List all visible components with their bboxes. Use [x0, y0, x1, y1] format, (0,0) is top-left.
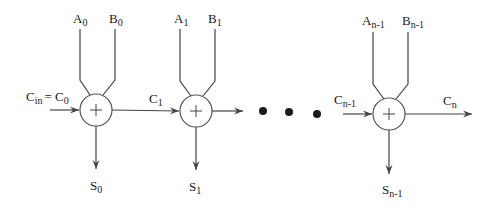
- label-b0: B0: [109, 11, 123, 28]
- label-s0: S0: [90, 178, 102, 195]
- adder-0: A0 B0 Cin= C0 C1 S0: [26, 11, 179, 195]
- label-s1: S1: [189, 179, 201, 196]
- carry-c1-arrow: [112, 110, 179, 111]
- label-cin-c0: Cin= C0: [26, 89, 69, 106]
- input-bn-1-wire: [396, 32, 408, 99]
- adder-1: A1 B1 S1: [174, 11, 243, 196]
- label-cn: Cn: [443, 93, 457, 110]
- adder-n-1: An-1 Bn-1 Cn-1 Cn Sn-1: [334, 13, 472, 199]
- label-bn-1: Bn-1: [402, 13, 424, 30]
- input-b0-wire: [103, 29, 115, 95]
- label-an-1: An-1: [362, 13, 385, 30]
- ellipsis-dot-3: [313, 110, 321, 118]
- label-a0: A0: [73, 11, 87, 28]
- input-b1-wire: [203, 29, 215, 96]
- label-cn-1: Cn-1: [334, 92, 356, 109]
- input-a0-wire: [80, 29, 90, 95]
- input-an-1-wire: [373, 32, 384, 99]
- label-a1: A1: [174, 11, 188, 28]
- ellipsis-dots: [259, 107, 321, 118]
- ripple-carry-adder-diagram: A0 B0 Cin= C0 C1 S0 A1 B1 S1 An-1 Bn-1: [0, 0, 495, 208]
- label-sn-1: Sn-1: [382, 182, 403, 199]
- input-a1-wire: [180, 29, 191, 96]
- ellipsis-dot-1: [259, 107, 267, 115]
- ellipsis-dot-2: [285, 108, 293, 116]
- label-b1: B1: [208, 11, 222, 28]
- label-c1: C1: [149, 91, 163, 108]
